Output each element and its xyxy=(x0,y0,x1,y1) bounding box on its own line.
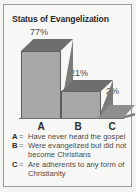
category-label-b: B xyxy=(71,121,85,132)
legend-item-c: C = Are adherents to any form of Christi… xyxy=(12,160,134,178)
legend-text-c: Are adherents to any form of Christianit… xyxy=(28,160,134,178)
figure-frame: Status of Evangelization 77% 21% 2% xyxy=(3,4,132,187)
legend-key-b: B xyxy=(12,141,17,150)
legend-separator-a: = xyxy=(19,132,23,141)
bar-value-label-a: 77% xyxy=(30,27,48,37)
legend-item-b: B = Were evangelized but did not become … xyxy=(12,141,134,159)
legend-text-b: Were evangelized but did not become Chri… xyxy=(28,141,134,159)
chart-title: Status of Evangelization xyxy=(12,14,109,24)
bar-a-top-face xyxy=(21,39,73,53)
category-label-a: A xyxy=(34,121,48,132)
bar-b-top-face xyxy=(61,80,113,93)
plot-area: 77% 21% 2% A B C xyxy=(9,25,135,125)
category-label-c: C xyxy=(105,121,119,132)
legend-key-c: C xyxy=(12,160,17,169)
legend-separator-b: = xyxy=(19,141,23,150)
legend-text-a: Have never heard the gospel xyxy=(28,132,134,141)
legend-separator-c: = xyxy=(19,160,23,169)
bar-a-front-face xyxy=(21,51,61,119)
legend-key-a: A xyxy=(12,132,17,141)
bar-b-front-face xyxy=(61,91,101,119)
axis-baseline xyxy=(19,118,124,119)
evangelization-chart-figure: Status of Evangelization 77% 21% 2% xyxy=(0,0,136,192)
legend: A = Have never heard the gospel B = Were… xyxy=(12,132,134,178)
legend-item-a: A = Have never heard the gospel xyxy=(12,132,134,141)
